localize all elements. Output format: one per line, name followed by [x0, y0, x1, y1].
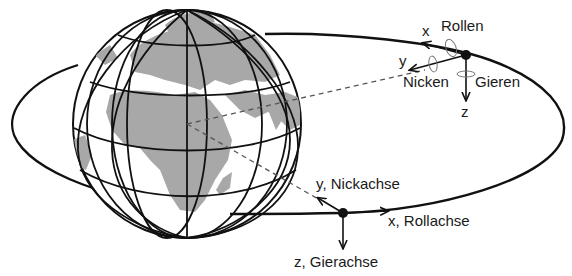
orbit-diagram: x Rollen y Nicken Gieren z y, Nickachse …: [0, 0, 572, 276]
y-axis-arrow: [410, 55, 466, 70]
label-roll: Rollen: [441, 17, 484, 34]
satellite-top-dot: [461, 50, 471, 60]
label-pitch-axis: y, Nickachse: [316, 175, 400, 192]
satellite-top: x Rollen y Nicken Gieren z: [399, 17, 520, 120]
globe: [72, 10, 301, 238]
label-pitch: Nicken: [403, 73, 449, 90]
satellite-bottom-dot: [338, 208, 348, 218]
label-y-top: y: [399, 52, 407, 69]
label-roll-axis: x, Rollachse: [388, 212, 470, 229]
label-x-top: x: [422, 22, 430, 39]
x-axis-arrow: [423, 43, 466, 55]
roll-axis-arrow: [343, 211, 388, 213]
satellite-bottom: y, Nickachse x, Rollachse z, Gierachse: [294, 175, 470, 270]
label-yaw-axis: z, Gierachse: [294, 253, 378, 270]
label-yaw: Gieren: [475, 73, 520, 90]
label-z-top: z: [461, 103, 469, 120]
